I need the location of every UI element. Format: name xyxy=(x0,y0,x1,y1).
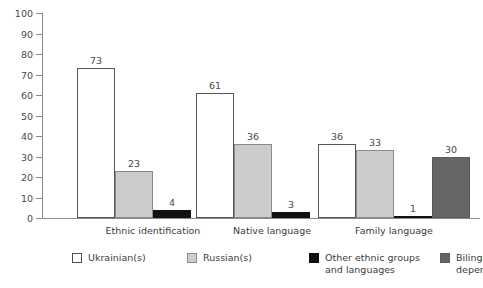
chart-legend: Ukrainian(s)Russian(s)Other ethnic group… xyxy=(12,246,480,286)
category-label: Native language xyxy=(233,225,311,236)
y-tick-mark xyxy=(36,13,42,14)
bar[interactable] xyxy=(77,68,115,218)
bar-value-label: 1 xyxy=(410,203,416,214)
y-tick-mark xyxy=(36,54,42,55)
bar[interactable] xyxy=(196,93,234,218)
y-tick-mark xyxy=(36,34,42,35)
legend-label: Russian(s) xyxy=(203,252,252,264)
y-tick-mark xyxy=(36,75,42,76)
y-tick-label: 0 xyxy=(27,213,33,224)
y-tick-label: 20 xyxy=(21,172,33,183)
y-tick-mark xyxy=(36,218,42,219)
bar-value-label: 23 xyxy=(128,158,140,169)
bar-value-label: 30 xyxy=(445,144,457,155)
bar-chart: 0102030405060708090100 73234613633633130… xyxy=(0,0,483,288)
y-tick: 100 xyxy=(42,13,43,14)
y-tick: 50 xyxy=(42,116,43,117)
legend-item[interactable]: Ukrainian(s) xyxy=(72,252,182,264)
bar[interactable] xyxy=(318,144,356,218)
y-tick: 30 xyxy=(42,157,43,158)
bar[interactable] xyxy=(394,216,432,218)
y-tick: 60 xyxy=(42,95,43,96)
y-tick-mark xyxy=(36,116,42,117)
y-tick: 70 xyxy=(42,75,43,76)
category-label: Ethnic identification xyxy=(106,225,201,236)
legend-item[interactable]: Bilinguals (language depends on circumst… xyxy=(440,252,483,275)
y-tick: 20 xyxy=(42,177,43,178)
y-tick-mark xyxy=(36,95,42,96)
y-tick: 0 xyxy=(42,218,43,219)
y-tick-label: 80 xyxy=(21,49,33,60)
light-gray-swatch xyxy=(187,253,197,263)
plot-area: 0102030405060708090100 73234613633633130… xyxy=(42,13,480,219)
bar[interactable] xyxy=(234,144,272,218)
x-axis-line xyxy=(42,218,480,219)
white-swatch xyxy=(72,253,82,263)
legend-label: Bilinguals (language depends on circumst… xyxy=(456,252,483,275)
y-tick-label: 70 xyxy=(21,69,33,80)
bar[interactable] xyxy=(153,210,191,218)
y-tick-mark xyxy=(36,157,42,158)
bar-value-label: 33 xyxy=(369,137,381,148)
y-tick: 90 xyxy=(42,34,43,35)
y-tick-label: 10 xyxy=(21,192,33,203)
y-tick-label: 60 xyxy=(21,90,33,101)
legend-item[interactable]: Other ethnic groups and languages xyxy=(309,252,429,275)
category-label: Family language xyxy=(355,225,433,236)
legend-label: Other ethnic groups and languages xyxy=(325,252,420,275)
chart-title xyxy=(0,0,483,1)
bar-value-label: 61 xyxy=(209,80,221,91)
y-tick-label: 100 xyxy=(15,8,33,19)
dark-gray-swatch xyxy=(440,253,450,263)
bar[interactable] xyxy=(356,150,394,218)
bar[interactable] xyxy=(115,171,153,218)
bar-value-label: 3 xyxy=(288,199,294,210)
legend-item[interactable]: Russian(s) xyxy=(187,252,297,264)
y-tick-mark xyxy=(36,198,42,199)
y-tick: 80 xyxy=(42,54,43,55)
bar[interactable] xyxy=(432,157,470,219)
y-tick-label: 90 xyxy=(21,28,33,39)
bar-value-label: 4 xyxy=(169,197,175,208)
y-tick: 40 xyxy=(42,136,43,137)
y-tick: 10 xyxy=(42,198,43,199)
black-swatch xyxy=(309,253,319,263)
y-tick-label: 40 xyxy=(21,131,33,142)
y-tick-mark xyxy=(36,177,42,178)
legend-label: Ukrainian(s) xyxy=(88,252,146,264)
y-tick-mark xyxy=(36,136,42,137)
y-tick-label: 30 xyxy=(21,151,33,162)
bar-value-label: 36 xyxy=(331,131,343,142)
y-tick-label: 50 xyxy=(21,110,33,121)
bar[interactable] xyxy=(272,212,310,218)
bar-value-label: 36 xyxy=(247,131,259,142)
bar-value-label: 73 xyxy=(90,55,102,66)
